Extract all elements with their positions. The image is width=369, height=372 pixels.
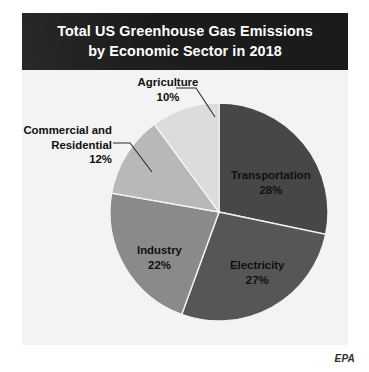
pie-chart-svg	[0, 0, 369, 372]
source-credit: EPA	[335, 353, 355, 364]
slice-label-transportation-name: Transportation	[231, 168, 311, 183]
slice-label-industry-name: Industry	[137, 243, 182, 258]
pie-chart	[0, 0, 369, 372]
slice-label-agriculture-value: 10%	[120, 90, 216, 105]
slice-label-commercial-name-line-1: Commercial and	[10, 123, 112, 138]
slice-label-agriculture: Agriculture 10%	[120, 75, 216, 104]
slice-label-transportation: Transportation 28%	[231, 168, 311, 197]
slice-label-commercial-value: 12%	[10, 152, 112, 167]
slice-label-transportation-value: 28%	[231, 183, 311, 198]
slice-label-electricity: Electricity 27%	[230, 258, 284, 287]
slice-label-electricity-value: 27%	[230, 273, 284, 288]
slice-label-electricity-name: Electricity	[230, 258, 284, 273]
slice-label-commercial-name-line-2: Residential	[10, 138, 112, 153]
pie-slice-group	[110, 103, 328, 321]
slice-label-commercial-residential: Commercial and Residential 12%	[10, 123, 112, 167]
slice-label-agriculture-name: Agriculture	[120, 75, 216, 90]
slice-label-industry: Industry 22%	[137, 243, 182, 272]
slice-label-industry-value: 22%	[137, 258, 182, 273]
figure-card: Total US Greenhouse Gas Emissions by Eco…	[0, 0, 369, 372]
